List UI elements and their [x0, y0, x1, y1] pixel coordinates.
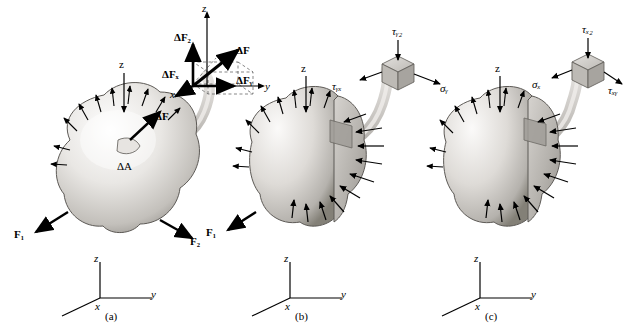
force-f1-arrow-b: [228, 212, 256, 230]
panel-a: [36, 73, 210, 316]
inset-c-stress-cube: [552, 38, 622, 88]
inset-c-sigma-x-arrow: [552, 70, 572, 78]
inset-a-delta-f-label: ΔF: [236, 44, 250, 56]
inset-a-x-label: x: [170, 88, 175, 100]
inset-a-y-label: y: [265, 80, 270, 92]
inset-b-tau-yx-arrow: [360, 72, 382, 80]
inset-c-tau-xy-arrow: [604, 72, 622, 84]
body-z-axis-label-a: z: [119, 58, 124, 70]
triad-y-label-c: y: [531, 288, 536, 300]
panel-b: [228, 70, 387, 316]
inset-a-delta-fx-arrow: [176, 86, 193, 96]
body-z-axis-label-c: z: [495, 62, 500, 74]
figure-canvas: [0, 0, 634, 331]
inset-b-sigma-y-label: σᵧ: [440, 82, 448, 94]
inset-a-delta-fz-label: ΔF₂: [174, 31, 191, 43]
section-face-b: [334, 96, 366, 222]
inset-c-sigma-x-label: σₓ: [532, 78, 541, 90]
delta-f-label-a: ΔF: [155, 110, 169, 122]
panel-caption-b: (b): [295, 310, 308, 322]
inset-a-z-label: z: [202, 2, 206, 14]
inset-c-tau-xy-label: τₓᵧ: [608, 84, 618, 96]
panel-caption-a: (a): [105, 310, 117, 322]
inset-b-sigma-y-arrow: [414, 74, 440, 84]
triad-y-label-a: y: [151, 288, 156, 300]
coordinate-triad-b: [252, 262, 342, 316]
figure-svg: [0, 0, 634, 331]
force-f2-label-a: F₂: [190, 235, 200, 247]
force-f2-arrow-a: [160, 220, 192, 238]
inset-a-delta-f-arrow: [193, 50, 238, 86]
triad-x-label-a: x: [95, 300, 100, 312]
inset-a-delta-fy-label: ΔFᵧ: [236, 74, 253, 86]
coordinate-triad-a: [62, 262, 152, 316]
body-z-axis-label-b: z: [301, 62, 306, 74]
triad-x-label-c: x: [475, 300, 480, 312]
section-face-c: [528, 96, 560, 222]
force-f1-arrow-a: [36, 212, 68, 232]
triad-x-label-b: x: [285, 300, 290, 312]
force-f1-label-a: F₁: [14, 228, 24, 240]
panel-c: [427, 68, 578, 316]
triad-z-label-b: z: [284, 252, 288, 264]
inset-c-tau-xz-label: τₓ₂: [582, 23, 593, 35]
triad-z-label-c: z: [474, 252, 478, 264]
triad-z-label-a: z: [94, 252, 98, 264]
panel-caption-c: (c): [485, 310, 497, 322]
inset-b-stress-cube: [360, 40, 440, 90]
coordinate-triad-c: [442, 262, 532, 316]
inset-a-delta-fx-label: ΔFₓ: [162, 68, 179, 80]
inset-b-tau-yz-label: τᵧ₂: [392, 25, 402, 37]
delta-a-label-a: ΔA: [117, 160, 132, 172]
force-f1-label-b: F₁: [206, 226, 216, 238]
triad-y-label-b: y: [341, 288, 346, 300]
inset-b-tau-yx-label: τᵧₓ: [332, 80, 342, 92]
